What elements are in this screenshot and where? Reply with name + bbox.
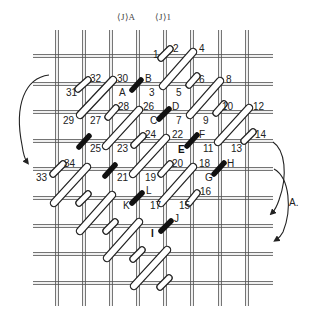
back-stitch-black [79,136,89,147]
stitch-label: 24 [145,129,157,140]
back-stitch-black [132,193,142,203]
stitch-label: 3 [149,87,155,98]
stitch-label: 19 [145,172,157,183]
stitch-label: J [174,213,179,224]
stitch-label: 20 [172,158,184,169]
stitch-label: 21 [117,172,129,183]
stitch-label: 11 [203,143,214,154]
stitch-label: 10 [222,101,234,112]
stitch-label: 27 [90,115,102,126]
stitch-label: 17 [150,200,162,211]
back-stitch-black [187,135,197,146]
stitch-label: 34 [64,158,76,169]
stitch-label: E [178,144,185,155]
stitch-label: F [199,129,205,140]
short-stitch [53,164,63,174]
short-stitch [133,250,142,259]
stitch-label: B [145,73,152,84]
right-arrow-A-lower-icon [274,169,288,240]
stitch-label: 16 [200,186,212,197]
left-return-arrow-icon [19,75,49,162]
back-stitch-black [214,163,224,174]
stitch-label: L [146,185,152,196]
stitch-label: 29 [63,115,75,126]
stitch-label: 30 [117,73,129,84]
stitch-label: 26 [143,101,155,112]
stitch-label: 31 [66,87,78,98]
stitch-label: 12 [253,101,265,112]
stitch-label: I [151,228,154,239]
stitch-label: 22 [172,129,184,140]
stitch-label: 13 [231,143,243,154]
short-stitch [161,49,170,58]
stitch-label: 2 [173,43,179,54]
stitch-label: C [150,115,157,126]
stitch-label: 5 [176,87,182,98]
stitch-label: 7 [176,115,182,126]
stitch-label: D [172,101,179,112]
back-stitch-black [161,221,171,231]
column-header-label: ⟨J⟩A [117,12,136,22]
short-stitch [79,194,88,203]
stitch-label: 1 [153,49,159,60]
stitch-label: 28 [118,101,130,112]
stitch-label: 33 [36,172,48,183]
short-stitch [106,222,115,231]
stitch-label: 23 [117,143,129,154]
header-labels: ⟨J⟩A⟨J⟩1 [117,12,171,22]
short-stitch [161,164,170,174]
stitch-label: 15 [179,200,191,211]
stitch-label: 9 [203,115,209,126]
column-header-label: ⟨J⟩1 [155,12,171,22]
short-stitch [78,80,88,89]
back-stitch-black [105,165,115,176]
stitch-label: H [227,158,234,169]
stitch-label: 4 [199,43,205,54]
stitch-label: G [205,172,213,183]
stitch-label: A [119,87,126,98]
stitch-label: 8 [226,74,232,85]
short-stitch [160,278,169,287]
stitch-label: 14 [255,129,267,140]
stitch-label: K [123,200,130,211]
short-stitch [134,136,143,145]
stitch-label: 25 [90,143,102,154]
stitch-label: 18 [199,158,211,169]
direction-annotation: A. [289,197,298,208]
needlepoint-stitch-diagram: 1243568791012111314313230AB29272826CD252… [0,0,310,326]
stitch-label: 32 [90,73,102,84]
stitch-label: 6 [199,74,205,85]
